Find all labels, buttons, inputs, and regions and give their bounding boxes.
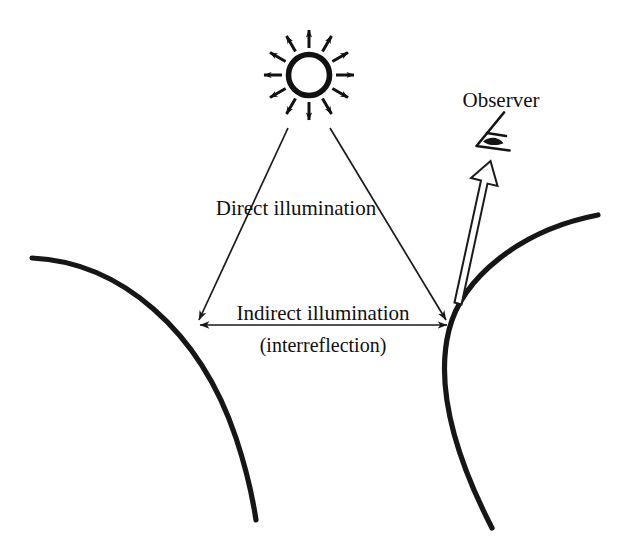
direct-illumination-ray-left [199, 128, 288, 320]
sun-disc [289, 55, 330, 96]
eye-icon [477, 113, 510, 151]
interreflection-label: (interreflection) [260, 334, 387, 357]
illumination-diagram: Direct illumination Indirect illuminatio… [0, 0, 619, 557]
sun-rays [264, 30, 354, 120]
indirect-illumination-label: Indirect illumination [236, 301, 410, 325]
direct-illumination-ray-right [330, 128, 446, 320]
direct-illumination-label: Direct illumination [216, 196, 377, 220]
diagram-canvas: Direct illumination Indirect illuminatio… [0, 0, 619, 557]
sun-icon [264, 30, 354, 120]
left-surface [32, 258, 256, 520]
observer-label: Observer [463, 88, 540, 112]
